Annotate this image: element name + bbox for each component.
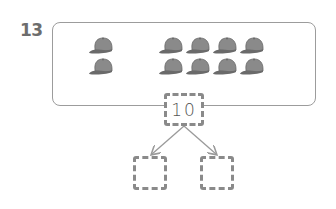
part-answer-box-left[interactable] [133, 156, 167, 190]
arrow-left [152, 126, 184, 154]
part-answer-box-right[interactable] [200, 156, 234, 190]
whole-number-box: 10 [164, 93, 204, 126]
arrow-right [184, 126, 216, 154]
